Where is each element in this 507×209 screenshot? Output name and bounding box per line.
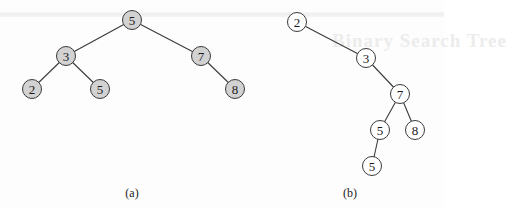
tree-edge [132,20,201,56]
tree-caption: (b) [343,186,357,201]
tree-edge [66,20,132,56]
tree-node: 3 [56,46,76,66]
tree-node: 5 [362,156,382,176]
tree-node: 8 [225,79,245,99]
tree-node: 5 [90,79,110,99]
tree-node: 2 [287,12,307,32]
tree-node: 2 [22,79,42,99]
tree-node: 3 [356,48,376,68]
tree-node: 5 [122,10,142,30]
tree-caption: (a) [125,186,138,201]
tree-node: 7 [390,84,410,104]
tree-node: 7 [191,46,211,66]
tree-node: 5 [370,120,390,140]
tree-node: 8 [405,120,425,140]
tree-edge [297,22,366,58]
